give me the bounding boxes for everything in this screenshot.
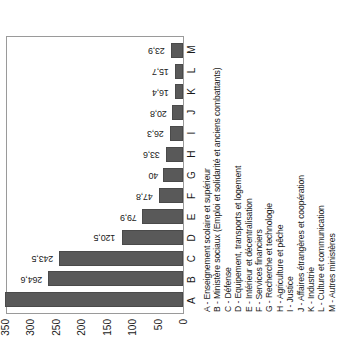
x-axis-tick-b: B [186,269,200,290]
bar-slot-i: 26,3 [7,123,183,144]
bar-slot-m: 23,9 [7,40,183,61]
legend-item: J - Affaires étrangères et coopération [296,12,306,312]
bar-slot-a: 349,3 [7,289,183,310]
bar-value-label: 120,5 [94,233,116,242]
y-axis-tick: 200 [77,319,87,336]
y-axis-tick: 100 [128,319,138,336]
bar [171,43,183,58]
y-axis-tick: 150 [103,319,113,336]
y-axis-tick: 350 [1,319,11,336]
y-axis: 350300250200150100500 [6,316,184,342]
bar-value-label: 23,9 [148,46,165,55]
x-axis-tick-m: M [186,39,200,60]
bar [142,209,183,224]
legend: A - Enseignement scolaire et supérieurB … [202,12,337,312]
bar-value-label: 15,7 [152,67,169,76]
bar-value-label: 47,8 [136,191,153,200]
legend-item: F - Services financiers [254,12,264,312]
bar-slot-k: 16,4 [7,82,183,103]
x-axis-tick-l: L [186,60,200,81]
bar [48,271,183,286]
x-axis-tick-g: G [186,165,200,186]
legend-item: I - Justice [285,12,295,312]
bar-slot-l: 15,7 [7,61,183,82]
bar-slot-c: 243,5 [7,248,183,269]
bar-value-label: 16,4 [152,87,169,96]
bar [172,105,183,120]
bar-slot-g: 40 [7,165,183,186]
y-axis-tick: 50 [154,319,164,330]
x-axis-tick-k: K [186,81,200,102]
bar [166,147,183,162]
bar [175,85,183,100]
bar-slot-f: 47,8 [7,185,183,206]
legend-item: M - Autres ministères [327,12,337,312]
bar-series: 349,3264,6243,5120,579,947,84033,626,320… [7,37,183,313]
y-axis-tick: 300 [26,319,36,336]
bar-slot-d: 120,5 [7,227,183,248]
plot-area: 349,3264,6243,5120,579,947,84033,626,320… [6,36,184,314]
bar-slot-h: 33,6 [7,144,183,165]
bar-slot-j: 20,8 [7,102,183,123]
bar-value-label: 264,6 [21,274,43,283]
bar [59,251,183,266]
legend-item: L - Culture et communication [316,12,326,312]
legend-item: D - Equipement, transports et logement [233,12,243,312]
bar-value-label: 243,5 [31,254,53,263]
legend-item: K - Industrie [306,12,316,312]
bar-chart-figure: 350300250200150100500 349,3264,6243,5120… [0,0,339,342]
bar-slot-b: 264,6 [7,268,183,289]
bar [159,188,183,203]
bar [170,126,183,141]
x-axis-tick-e: E [186,206,200,227]
bar [175,64,183,79]
legend-item: G - Recherche et technologie [264,12,274,312]
bar-value-label: 40 [149,171,159,180]
legend-item: E - Intérieur et décentralisation [244,12,254,312]
y-axis-tick: 250 [52,319,62,336]
bar [163,168,183,183]
legend-item: H - Agriculture et pêche [275,12,285,312]
y-axis-tick: 0 [179,319,189,325]
x-axis-tick-j: J [186,102,200,123]
bar-value-label: 26,3 [147,129,164,138]
bar [122,230,183,245]
bar-value-label: 20,8 [150,108,167,117]
legend-item: C - Défense [223,12,233,312]
bar-value-label: 33,6 [143,150,160,159]
bar [5,292,183,307]
x-axis-tick-a: A [186,290,200,311]
legend-item: B - Ministère sociaux (Emploi et solidar… [212,12,222,312]
legend-item: A - Enseignement scolaire et supérieur [202,12,212,312]
x-axis: ABCDEFGHIJKLM [186,36,200,314]
x-axis-tick-i: I [186,123,200,144]
x-axis-tick-h: H [186,144,200,165]
rotated-figure-container: 350300250200150100500 349,3264,6243,5120… [0,0,339,342]
x-axis-tick-c: C [186,248,200,269]
x-axis-tick-d: D [186,227,200,248]
bar-value-label: 79,9 [120,212,137,221]
x-axis-tick-f: F [186,185,200,206]
bar-slot-e: 79,9 [7,206,183,227]
